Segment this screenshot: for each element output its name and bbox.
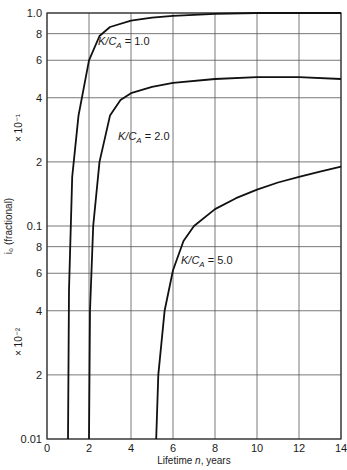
y-axis-ticks: 0.0124680.124681.0: [21, 7, 42, 445]
chart: 02468101214 0.0124680.124681.0 Lifetime …: [0, 0, 347, 470]
curve-label-k1: K/CA = 1.0: [98, 35, 150, 50]
x-tick-label: 8: [212, 442, 218, 454]
x-axis-ticks: 02468101214: [44, 442, 347, 454]
y-tick-label: 1.0: [27, 7, 42, 19]
y-tick-label: 6: [36, 267, 42, 279]
x-axis-label: Lifetime n, years: [157, 455, 230, 466]
y-tick-label: 4: [36, 92, 42, 104]
x-tick-label: 4: [128, 442, 134, 454]
y-tick-label: 2: [36, 156, 42, 168]
y-tick-label: 8: [36, 241, 42, 253]
curve-label-k5: K/CA = 5.0: [181, 254, 233, 269]
y-tick-label: 0.01: [21, 433, 42, 445]
curve-label-k2: K/CA = 2.0: [118, 130, 170, 145]
y-multiplier-upper: × 10⁻¹: [13, 113, 24, 142]
y-tick-label: 2: [36, 369, 42, 381]
x-tick-label: 6: [170, 442, 176, 454]
x-tick-label: 2: [86, 442, 92, 454]
y-tick-label: 6: [36, 54, 42, 66]
y-tick-label: 8: [36, 28, 42, 40]
x-tick-label: 12: [293, 442, 305, 454]
x-tick-label: 0: [44, 442, 50, 454]
x-tick-label: 10: [251, 442, 263, 454]
y-multiplier-lower: × 10⁻²: [13, 327, 24, 356]
y-tick-label: 4: [36, 305, 42, 317]
x-tick-label: 14: [335, 442, 347, 454]
curve-k3: [156, 167, 341, 439]
y-tick-label: 0.1: [27, 220, 42, 232]
y-axis-label: i₀ (fractional): [3, 198, 14, 254]
